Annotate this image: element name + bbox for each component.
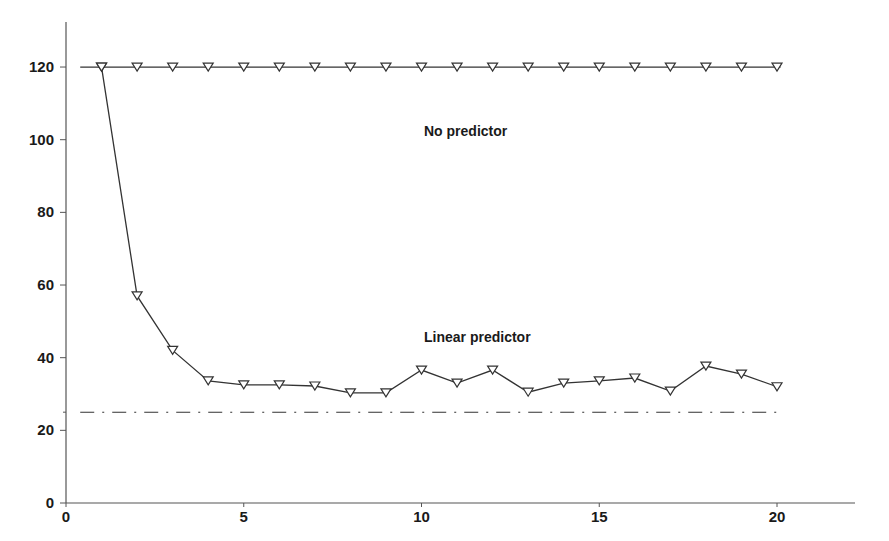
y-tick-label: 120 — [29, 58, 54, 75]
axes: 02040608010012005101520 — [29, 22, 855, 525]
triangle-down-marker — [665, 387, 675, 395]
series-no-predictor — [80, 63, 782, 71]
series-layer — [80, 63, 782, 412]
y-tick-label: 40 — [37, 349, 54, 366]
y-tick-label: 60 — [37, 276, 54, 293]
annotation-no-predictor: No predictor — [424, 123, 508, 139]
y-tick-label: 20 — [37, 421, 54, 438]
x-tick-label: 15 — [591, 508, 608, 525]
x-tick-label: 5 — [240, 508, 248, 525]
triangle-down-marker — [772, 383, 782, 391]
y-tick-label: 80 — [37, 203, 54, 220]
triangle-down-marker — [452, 379, 462, 387]
annotation-linear-predictor: Linear predictor — [424, 329, 531, 345]
triangle-down-marker — [132, 292, 142, 300]
triangle-down-marker — [523, 388, 533, 396]
y-tick-label: 0 — [46, 494, 54, 511]
line-chart: 02040608010012005101520 No predictor Lin… — [0, 0, 889, 541]
y-tick-label: 100 — [29, 131, 54, 148]
series-linear-predictor — [97, 63, 782, 397]
x-tick-label: 20 — [769, 508, 786, 525]
triangle-down-marker — [736, 370, 746, 378]
x-tick-label: 10 — [413, 508, 430, 525]
x-tick-label: 0 — [62, 508, 70, 525]
